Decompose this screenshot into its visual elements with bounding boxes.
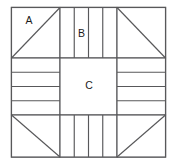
label-c: C <box>85 79 93 91</box>
cell-top-right <box>117 8 166 59</box>
cell-top-left: A <box>12 8 61 59</box>
label-b: B <box>78 27 85 39</box>
cell-middle-left <box>12 58 61 115</box>
cell-bottom-center <box>60 115 117 157</box>
cell-bottom-left <box>12 115 61 157</box>
cell-center: C <box>60 58 117 115</box>
quilt-block-diagram: A B C <box>0 0 176 165</box>
quilt-block-figure: A B C <box>0 0 176 165</box>
cell-middle-right <box>117 58 166 115</box>
cell-bottom-right <box>117 115 166 157</box>
cell-top-center: B <box>60 8 117 59</box>
label-a: A <box>25 14 32 26</box>
